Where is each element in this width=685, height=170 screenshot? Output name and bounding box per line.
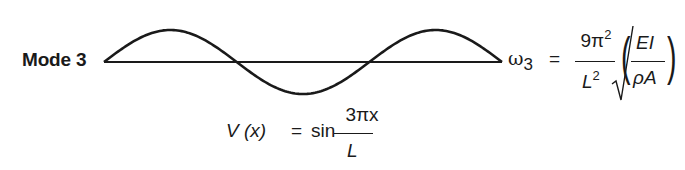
equals-sign: = xyxy=(549,48,560,70)
inner-numerator: EI xyxy=(636,32,654,54)
omega-glyph: ω xyxy=(508,47,524,69)
inner-denominator: ρA xyxy=(633,67,657,89)
mode-shape-equals: = xyxy=(291,120,302,142)
omega-symbol: ω3 xyxy=(508,47,533,75)
close-paren: ) xyxy=(667,26,677,86)
coef-den-exponent: 2 xyxy=(593,68,600,83)
open-paren: ( xyxy=(621,26,631,86)
mode-shape-function: V (x) xyxy=(226,120,266,141)
mode-shape-denominator: L xyxy=(347,140,358,162)
mode-shape-lhs: V (x) xyxy=(226,120,266,142)
coef-num-text: 9π xyxy=(581,30,605,51)
mode-shape-numerator: 3πx xyxy=(335,104,389,126)
inner-fraction-bar xyxy=(631,61,665,62)
omega-subscript: 3 xyxy=(524,55,533,74)
coef-den-text: L xyxy=(582,71,593,92)
coefficient-denominator: L2 xyxy=(582,68,600,93)
mode-shape-fraction-bar xyxy=(334,133,373,134)
sin-function: sin xyxy=(311,120,335,142)
